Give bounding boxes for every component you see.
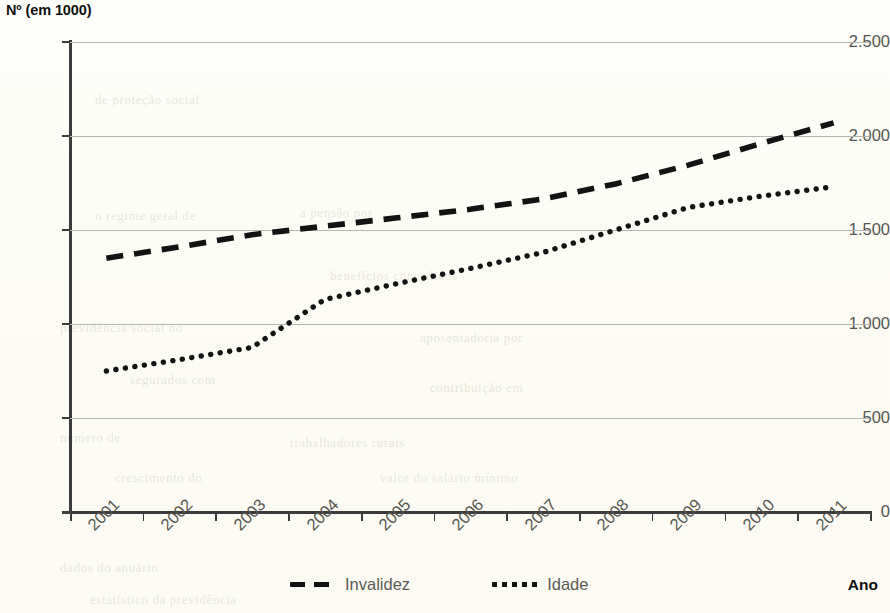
legend-label-invalidez: Invalidez xyxy=(345,575,410,594)
series-plot-area xyxy=(0,0,890,613)
x-axis-title: Ano xyxy=(848,576,878,594)
series-line-idade xyxy=(106,187,833,371)
legend-item-idade[interactable]: Idade xyxy=(492,575,588,594)
legend-item-invalidez[interactable]: Invalidez xyxy=(290,575,410,594)
chart-legend: Invalidez Idade xyxy=(290,575,588,594)
series-line-invalidez xyxy=(106,123,833,258)
dotted-line-swatch-icon xyxy=(492,582,538,587)
legend-label-idade: Idade xyxy=(547,575,588,594)
chart-page: de proteção sociala pensão poro regime g… xyxy=(0,0,890,613)
dashed-line-swatch-icon xyxy=(290,582,336,587)
